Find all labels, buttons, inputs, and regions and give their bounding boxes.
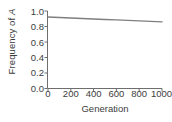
x-tick-label: 800 — [131, 89, 147, 99]
x-tick-label: 1000 — [151, 89, 172, 99]
x-axis-label: Generation — [48, 103, 162, 114]
x-tick-label: 600 — [108, 89, 124, 99]
x-tick-label: 400 — [86, 89, 102, 99]
x-tick-label: 200 — [63, 89, 79, 99]
chart-figure: Frequency of A 1.0 0.8 0.6 0.4 0.2 0.0 — [0, 0, 172, 122]
x-tick-label: 0 — [45, 89, 50, 99]
